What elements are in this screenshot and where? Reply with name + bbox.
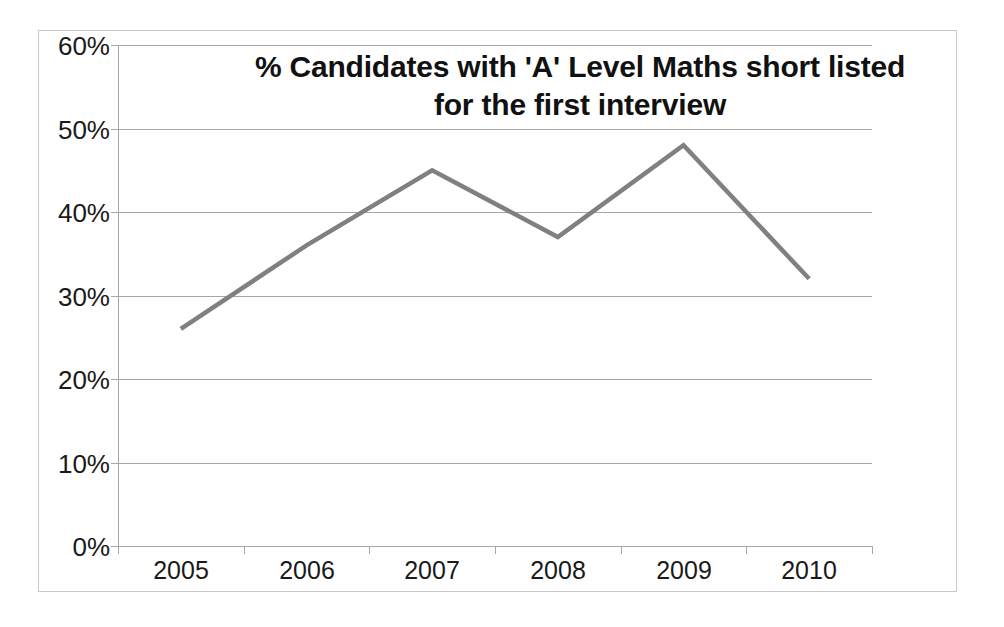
x-tick-boundary-6 [872, 546, 873, 554]
x-axis-label-2007: 2007 [404, 556, 460, 585]
y-tick-0 [111, 546, 118, 547]
y-axis-label-50: 50% [0, 115, 110, 146]
gridline-30 [118, 296, 872, 297]
x-tick-boundary-4 [621, 546, 622, 554]
gridline-10 [118, 463, 872, 464]
x-axis-label-2005: 2005 [153, 556, 209, 585]
x-axis-label-2009: 2009 [656, 556, 712, 585]
y-axis-label-0: 0% [0, 532, 110, 563]
y-axis-label-20: 20% [0, 365, 110, 396]
y-tick-20 [111, 379, 118, 380]
x-tick-boundary-0 [118, 546, 119, 554]
chart-canvas: % Candidates with 'A' Level Maths short … [0, 0, 1004, 627]
plot-area [118, 45, 872, 546]
x-axis-label-2006: 2006 [279, 556, 335, 585]
y-tick-10 [111, 463, 118, 464]
gridline-60 [118, 45, 872, 46]
y-axis-label-10: 10% [0, 449, 110, 480]
x-axis-label-2008: 2008 [530, 556, 586, 585]
y-axis-label-40: 40% [0, 198, 110, 229]
gridline-50 [118, 129, 872, 130]
y-tick-60 [111, 45, 118, 46]
y-axis-label-60: 60% [0, 31, 110, 62]
x-tick-boundary-1 [244, 546, 245, 554]
y-tick-40 [111, 212, 118, 213]
y-axis-label-30: 30% [0, 282, 110, 313]
gridline-20 [118, 379, 872, 380]
x-tick-boundary-5 [746, 546, 747, 554]
y-tick-50 [111, 129, 118, 130]
gridline-40 [118, 212, 872, 213]
x-tick-boundary-2 [369, 546, 370, 554]
x-axis-label-2010: 2010 [781, 556, 837, 585]
x-tick-boundary-3 [495, 546, 496, 554]
y-tick-30 [111, 296, 118, 297]
